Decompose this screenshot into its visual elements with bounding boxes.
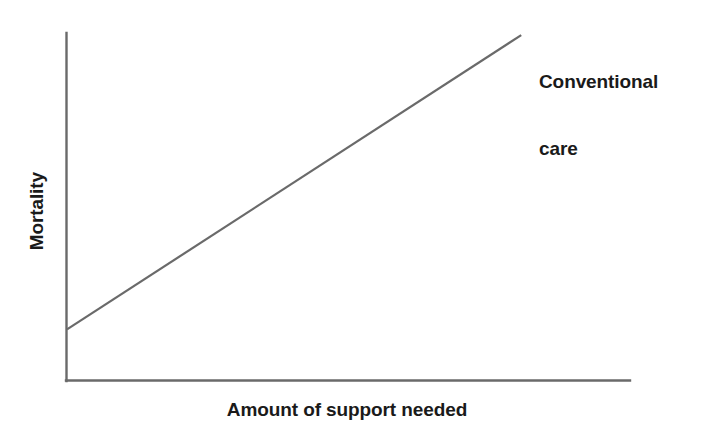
y-axis-label: Mortality — [26, 121, 48, 301]
annotation-line-2: care — [539, 138, 699, 160]
x-axis-label: Amount of support needed — [0, 399, 694, 421]
annotation-line-1: Conventional — [539, 71, 699, 93]
series-annotation-conventional-care: Conventional care — [539, 26, 699, 205]
series-line-conventional-care — [67, 35, 521, 329]
y-axis-label-wrapper: Mortality — [0, 120, 74, 300]
chart-figure: Mortality Amount of support needed Conve… — [0, 0, 702, 435]
